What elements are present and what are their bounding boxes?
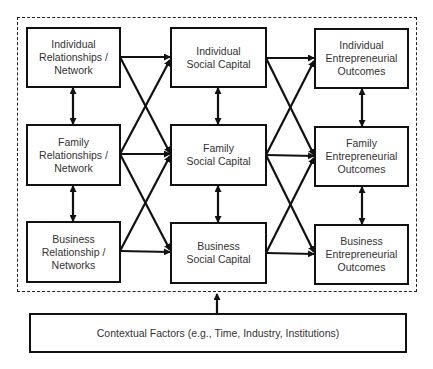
node-family-relationships: Family Relationships / Network bbox=[26, 124, 121, 186]
node-individual-relationships: Individual Relationships / Network bbox=[26, 27, 121, 88]
node-individual-entrepreneurial-outcomes: Individual Entrepreneurial Outcomes bbox=[314, 28, 409, 89]
arrow-bus-sc-to-bus-eo bbox=[266, 253, 314, 254]
arrow-bus-rel-to-bus-sc bbox=[120, 251, 170, 252]
node-contextual-factors: Contextual Factors (e.g., Time, Industry… bbox=[29, 313, 407, 353]
node-business-entrepreneurial-outcomes: Business Entrepreneurial Outcomes bbox=[314, 224, 409, 285]
node-individual-social-capital: Individual Social Capital bbox=[170, 27, 267, 88]
node-business-relationships: Business Relationship / Networks bbox=[26, 221, 121, 283]
node-family-social-capital: Family Social Capital bbox=[170, 124, 267, 186]
arrow-fam-sc-to-fam-eo bbox=[266, 155, 314, 156]
node-business-social-capital: Business Social Capital bbox=[170, 222, 267, 284]
node-family-entrepreneurial-outcomes: Family Entrepreneurial Outcomes bbox=[314, 126, 409, 187]
